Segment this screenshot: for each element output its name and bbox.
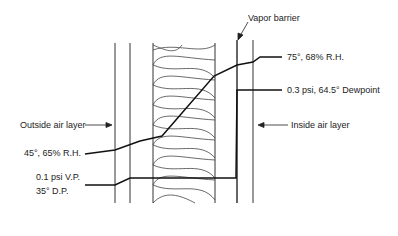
insulation-pattern — [153, 45, 215, 203]
outside-vp-label: 0.1 psi V.P. — [36, 172, 80, 183]
vapor-barrier-label: Vapor barrier — [248, 13, 300, 24]
outside-air-layer-label: Outside air layer — [20, 120, 86, 131]
outside-temp-label: 45°, 65% R.H. — [24, 148, 81, 159]
inside-temp-label: 75°, 68% R.H. — [287, 52, 344, 63]
arrow-icon — [238, 33, 243, 40]
inside-vp-label: 0.3 psi, 64.5° Dewpoint — [287, 85, 380, 96]
arrow-icon — [258, 123, 264, 128]
arrow-icon — [106, 123, 112, 128]
inside-air-layer-label: Inside air layer — [291, 120, 350, 131]
outside-dp-label: 35° D.P. — [36, 186, 68, 197]
wall-section-diagram — [0, 0, 398, 236]
